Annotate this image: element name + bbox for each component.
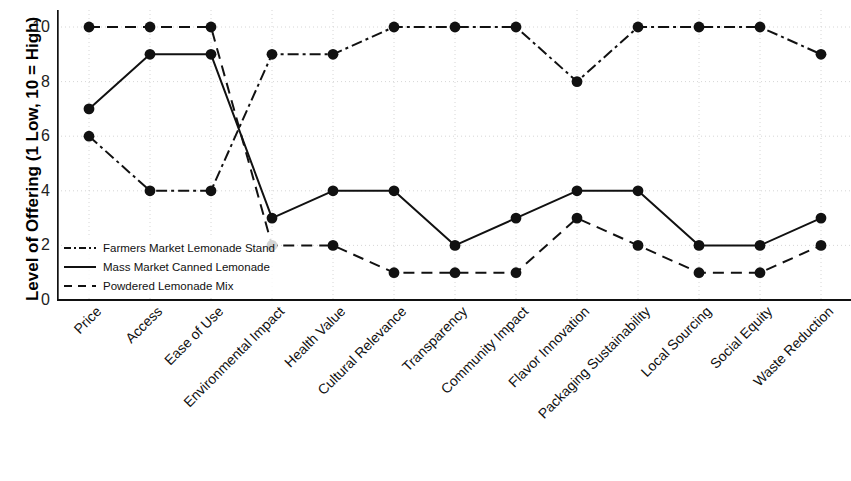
data-point [633,185,644,196]
x-axis-tick-label: Price [66,303,104,341]
data-point [206,22,217,33]
legend-label: Powdered Lemonade Mix [103,280,233,292]
data-point [328,49,339,60]
x-axis-tick-text: Packaging Sustainability [530,303,653,426]
legend-item[interactable]: Mass Market Canned Lemonade [64,257,277,276]
y-axis-tick-4: 4 [41,182,50,200]
legend-label: Mass Market Canned Lemonade [103,261,270,273]
data-point [145,49,156,60]
data-point [694,267,705,278]
x-axis-tick-text: Access [118,303,165,350]
data-point [84,104,95,115]
data-point [511,213,522,224]
data-point [816,49,827,60]
legend: Farmers Market Lemonade StandMass Market… [62,236,277,298]
data-point [389,267,400,278]
data-point [328,185,339,196]
legend-item[interactable]: Powdered Lemonade Mix [64,276,277,295]
y-axis-tick-8: 8 [41,73,50,91]
legend-swatch-icon [64,280,96,292]
data-point [267,49,278,60]
data-point [206,185,217,196]
data-point [633,22,644,33]
data-point [755,267,766,278]
legend-swatch-icon [64,242,96,254]
data-point [572,185,583,196]
data-point [694,240,705,251]
legend-swatch-icon [64,261,96,273]
data-point [450,22,461,33]
x-axis-tick-text: Environmental Impact [176,303,287,414]
x-axis-tick-label: Access [118,303,165,350]
data-point [389,22,400,33]
data-point [633,240,644,251]
data-point [816,213,827,224]
y-axis-tick-labels: 0246810 [0,0,57,301]
legend-label: Farmers Market Lemonade Stand [103,242,275,254]
x-axis-tick-label: Environmental Impact [176,303,287,414]
y-axis-tick-0: 0 [41,291,50,309]
data-point [328,240,339,251]
x-axis-tick-label: Packaging Sustainability [530,303,653,426]
data-point [755,22,766,33]
data-point [755,240,766,251]
legend-item[interactable]: Farmers Market Lemonade Stand [64,238,277,257]
data-point [389,185,400,196]
y-axis-tick-2: 2 [41,236,50,254]
x-axis-tick-labels: PriceAccessEase of UseEnvironmental Impa… [57,303,851,481]
data-point [450,240,461,251]
data-point [572,76,583,87]
x-axis-tick-text: Price [66,303,104,341]
data-point [816,240,827,251]
chart-figure: Level of Offering (1 Low, 10 = High) 024… [0,0,851,481]
data-point [84,22,95,33]
y-axis-tick-6: 6 [41,127,50,145]
data-point [572,213,583,224]
data-point [145,22,156,33]
data-point [84,131,95,142]
data-point [267,213,278,224]
data-point [450,267,461,278]
data-point [145,185,156,196]
y-axis-tick-10: 10 [32,18,50,36]
data-point [206,49,217,60]
data-point [694,22,705,33]
data-point [511,267,522,278]
data-point [511,22,522,33]
